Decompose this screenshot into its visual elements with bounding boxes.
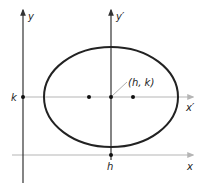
right-focus-point [131, 95, 135, 99]
y-axis-label: y [27, 11, 35, 22]
x-axis-label: x [186, 161, 193, 172]
ellipse-diagram: y y′ k (h, k) x′ h x [0, 0, 206, 190]
left-focus-point [87, 95, 91, 99]
y-prime-axis-label: y′ [115, 11, 125, 22]
k-label: k [11, 92, 18, 103]
center-leader-line [112, 82, 127, 96]
center-label: (h, k) [128, 77, 154, 88]
h-label: h [107, 161, 113, 172]
h-point [109, 153, 113, 157]
x-prime-axis-label: x′ [185, 102, 195, 113]
k-point [21, 95, 25, 99]
center-point [109, 95, 113, 99]
